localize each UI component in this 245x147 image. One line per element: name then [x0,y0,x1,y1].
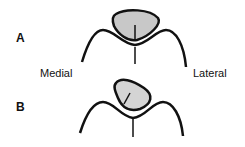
medial-label: Medial [40,67,72,79]
patella-b [115,80,151,110]
panel-a-drawing [82,10,186,67]
lateral-label: Lateral [193,67,227,79]
panel-b-label: B [16,100,25,114]
panel-a-label: A [16,31,25,45]
panel-b-drawing [80,80,183,137]
patellofemoral-diagram: A Medial Lateral B [0,0,245,147]
